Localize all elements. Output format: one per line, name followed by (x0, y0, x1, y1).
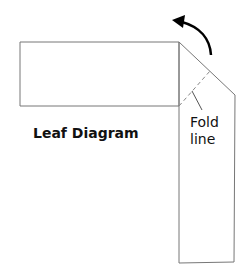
fold-line-label: Fold line (190, 114, 219, 148)
horizontal-leaf-panel (20, 42, 179, 106)
fold-line-dashed (179, 71, 210, 106)
fold-line-pointer (192, 91, 202, 110)
fold-label-line1: Fold (190, 114, 219, 131)
fold-label-line2: line (190, 131, 219, 148)
arrow-head-icon (172, 15, 185, 28)
fold-direction-arrow-icon (182, 22, 211, 55)
diagram-title: Leaf Diagram (33, 125, 139, 141)
vertical-leaf-panel (179, 42, 235, 263)
